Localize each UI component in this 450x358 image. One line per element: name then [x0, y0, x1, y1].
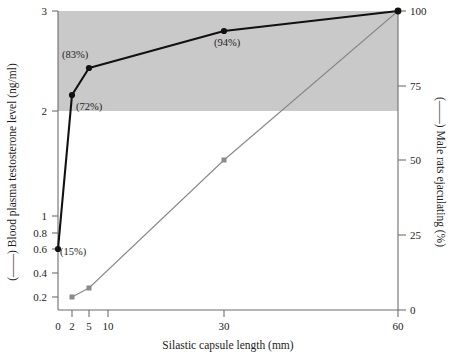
- tick-label-right-25: 25: [410, 229, 422, 241]
- x-axis-tick-labels: 0 2 5 10 30 60: [55, 320, 404, 332]
- right-axis-ticks: [398, 11, 406, 310]
- annotation-15-percent: (15%): [60, 246, 87, 258]
- y-axis-title-right: (——) Male rats ejaculating (%): [434, 97, 447, 247]
- annotation-83-percent: (83%): [62, 49, 89, 61]
- tick-label-left-0.4: 0.4: [33, 267, 47, 279]
- left-axis-tick-labels: 3 2 1 0.8 0.6 0.4 0.2: [33, 5, 47, 303]
- data-point-ejac-2mm: [70, 295, 75, 300]
- data-point-ejac-5mm: [87, 286, 92, 291]
- data-point-testosterone-2mm: [69, 92, 75, 98]
- tick-label-x-2: 2: [69, 320, 75, 332]
- tick-label-x-30: 30: [219, 320, 231, 332]
- series-points-male-rats-ejaculating: [70, 158, 227, 300]
- left-axis-ticks: [52, 11, 58, 297]
- tick-label-left-0.6: 0.6: [33, 243, 47, 255]
- data-point-testosterone-60mm: [395, 8, 402, 15]
- tick-label-x-5: 5: [86, 320, 92, 332]
- tick-label-right-75: 75: [410, 80, 422, 92]
- chart-svg: 3 2 1 0.8 0.6 0.4 0.2 100 75 50 25 0: [0, 0, 450, 358]
- tick-label-right-50: 50: [410, 154, 422, 166]
- right-axis-tick-labels: 100 75 50 25 0: [410, 5, 427, 316]
- data-point-ejac-30mm: [222, 158, 227, 163]
- annotation-72-percent: (72%): [76, 101, 103, 113]
- tick-label-left-3: 3: [42, 5, 48, 17]
- y-axis-title-left: (——) Blood plasma testosterone level (ng…: [6, 63, 19, 281]
- x-axis-ticks: [72, 310, 398, 317]
- data-point-testosterone-30mm: [221, 28, 227, 34]
- tick-label-left-2: 2: [42, 105, 48, 117]
- shaded-normal-range-band: [58, 11, 398, 111]
- chart-figure: 3 2 1 0.8 0.6 0.4 0.2 100 75 50 25 0: [0, 0, 450, 358]
- tick-label-left-0.2: 0.2: [33, 291, 47, 303]
- tick-label-right-0: 0: [410, 304, 416, 316]
- data-point-testosterone-5mm: [86, 65, 92, 71]
- tick-label-left-0.8: 0.8: [33, 227, 47, 239]
- x-axis-title: Silastic capsule length (mm): [162, 339, 293, 352]
- annotation-94-percent: (94%): [214, 37, 241, 49]
- tick-label-left-1: 1: [42, 210, 48, 222]
- tick-label-x-10: 10: [103, 320, 115, 332]
- tick-label-right-100: 100: [410, 5, 427, 17]
- tick-label-x-60: 60: [393, 320, 405, 332]
- tick-label-x-0: 0: [55, 320, 61, 332]
